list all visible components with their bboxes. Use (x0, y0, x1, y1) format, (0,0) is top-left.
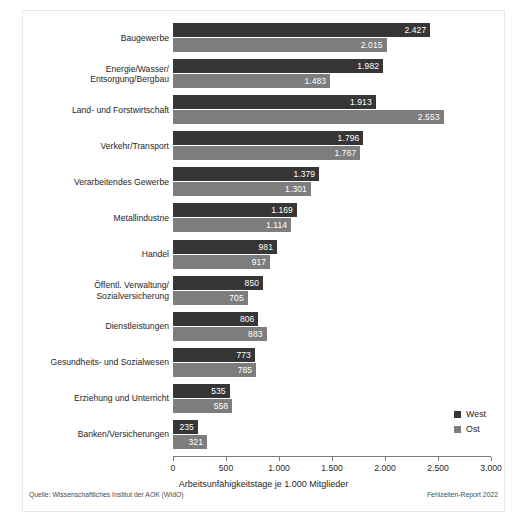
category-label: Gesundheits- und Sozialwesen (24, 357, 169, 368)
x-tick-label: 2.500 (427, 463, 449, 473)
bar-west[interactable]: 235 (173, 420, 198, 434)
bar-group: 535558 (173, 384, 491, 413)
bar-value-label: 1.169 (271, 206, 293, 215)
bar-value-label: 773 (236, 351, 250, 360)
bar-value-label: 850 (245, 278, 259, 287)
x-tick-label: 500 (219, 463, 233, 473)
bar-value-label: 705 (229, 293, 243, 302)
x-tick-label: 1.000 (268, 463, 290, 473)
bar-ost[interactable]: 785 (173, 363, 256, 377)
x-tick (332, 457, 333, 461)
x-tick (438, 457, 439, 461)
bar-ost[interactable]: 1.301 (173, 182, 311, 196)
bar-value-label: 1.767 (335, 149, 357, 158)
bar-ost[interactable]: 2.015 (173, 38, 387, 52)
legend-item[interactable]: Ost (454, 424, 486, 434)
bar-ost[interactable]: 1.483 (173, 74, 330, 88)
bar-group: 235321 (173, 420, 491, 449)
bar-group: 773785 (173, 348, 491, 377)
bar-value-label: 981 (259, 242, 273, 251)
bar-group: 981917 (173, 240, 491, 269)
chart-legend: WestOst (454, 409, 486, 439)
x-axis-ticks: 05001.0001.5002.0002.5003.000 (173, 457, 491, 477)
bar-west[interactable]: 773 (173, 348, 255, 362)
bar-value-label: 1.913 (350, 98, 372, 107)
bar-west[interactable]: 981 (173, 240, 277, 254)
category-label-column: BaugewerbeEnergie/Wasser/ Entsorgung/Ber… (23, 23, 169, 456)
bar-value-label: 917 (252, 257, 266, 266)
legend-swatch-icon (454, 411, 461, 418)
bar-group: 2.4272.015 (173, 23, 491, 52)
bar-ost[interactable]: 321 (173, 435, 207, 449)
bar-value-label: 558 (214, 402, 228, 411)
bar-group: 1.1691.114 (173, 203, 491, 232)
bar-west[interactable]: 535 (173, 384, 230, 398)
x-tick-label: 0 (171, 463, 176, 473)
bar-value-label: 2.553 (418, 113, 440, 122)
bar-group: 850705 (173, 276, 491, 305)
bar-ost[interactable]: 705 (173, 291, 248, 305)
bar-value-label: 2.015 (361, 41, 383, 50)
bar-west[interactable]: 1.169 (173, 203, 297, 217)
category-label: Banken/Versicherungen (24, 429, 169, 440)
bar-value-label: 1.796 (338, 134, 360, 143)
bar-group: 1.9821.483 (173, 59, 491, 88)
category-label: Land- und Forstwirtschaft (24, 104, 169, 115)
bar-ost[interactable]: 2.553 (173, 110, 444, 124)
category-label: Erziehung und Unterricht (24, 393, 169, 404)
category-label: Dienstleistungen (24, 321, 169, 332)
bar-value-label: 235 (179, 423, 193, 432)
bar-west[interactable]: 1.982 (173, 59, 383, 73)
bar-ost[interactable]: 1.114 (173, 218, 291, 232)
report-note: Fehlzeiten-Report 2022 (427, 491, 498, 498)
bar-west[interactable]: 2.427 (173, 23, 430, 37)
bar-value-label: 1.982 (357, 62, 379, 71)
source-note: Quelle: Wissenschaftliches Institut der … (29, 491, 184, 498)
category-label: Öffentl. Verwaltung/ Sozialversicherung (24, 280, 169, 301)
x-tick-label: 2.000 (374, 463, 396, 473)
chart-figure: BaugewerbeEnergie/Wasser/ Entsorgung/Ber… (22, 10, 505, 512)
category-label: Energie/Wasser/ Entsorgung/Bergbau (24, 63, 169, 84)
bar-value-label: 1.379 (293, 170, 315, 179)
category-label: Verarbeitendes Gewerbe (24, 177, 169, 188)
x-tick (173, 457, 174, 461)
x-axis-title: Arbeitsunfähigkeitstage je 1.000 Mitglie… (23, 479, 504, 489)
bar-value-label: 1.114 (266, 221, 287, 230)
chart-footer: Quelle: Wissenschaftliches Institut der … (23, 491, 504, 505)
bar-value-label: 806 (240, 314, 254, 323)
x-tick-label: 1.500 (321, 463, 343, 473)
bar-group: 806883 (173, 312, 491, 341)
bar-value-label: 535 (211, 387, 225, 396)
bar-west[interactable]: 1.796 (173, 131, 363, 145)
bar-value-label: 321 (189, 438, 203, 447)
x-tick (279, 457, 280, 461)
bar-west[interactable]: 806 (173, 312, 258, 326)
bar-ost[interactable]: 1.767 (173, 146, 360, 160)
bar-west[interactable]: 1.379 (173, 167, 319, 181)
legend-item[interactable]: West (454, 409, 486, 419)
category-label: Verkehr/Transport (24, 141, 169, 152)
bar-ost[interactable]: 883 (173, 327, 267, 341)
bar-group: 1.3791.301 (173, 167, 491, 196)
legend-swatch-icon (454, 426, 461, 433)
bar-ost[interactable]: 558 (173, 399, 232, 413)
bar-west[interactable]: 1.913 (173, 95, 376, 109)
bar-group: 1.7961.767 (173, 131, 491, 160)
category-label: Handel (24, 249, 169, 260)
category-label: Baugewerbe (24, 32, 169, 43)
bar-value-label: 1.301 (285, 185, 307, 194)
x-tick-label: 3.000 (480, 463, 502, 473)
bar-value-label: 1.483 (304, 77, 326, 86)
bar-west[interactable]: 850 (173, 276, 263, 290)
category-label: Metallindustrie (24, 213, 169, 224)
bar-group: 1.9132.553 (173, 95, 491, 124)
bar-value-label: 2.427 (404, 26, 426, 35)
legend-label: Ost (466, 424, 480, 434)
plot-area: 2.4272.0151.9821.4831.9132.5531.7961.767… (173, 23, 491, 456)
bar-ost[interactable]: 917 (173, 255, 270, 269)
x-tick (226, 457, 227, 461)
x-tick (385, 457, 386, 461)
bar-value-label: 785 (238, 366, 252, 375)
legend-label: West (466, 409, 486, 419)
x-tick (491, 457, 492, 461)
